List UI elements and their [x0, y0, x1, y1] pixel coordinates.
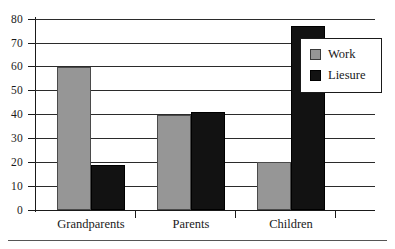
y-axis-tick [28, 162, 35, 163]
x-axis-category-label: Grandparents [57, 217, 124, 232]
bar-chart: 80 70 60 50 40 30 20 10 0 [0, 0, 395, 249]
work-swatch-icon [310, 49, 321, 60]
x-axis-category-label: Children [269, 217, 313, 232]
legend-label: Liesure [328, 68, 365, 83]
legend-item-liesure: Liesure [310, 68, 365, 83]
y-axis-tick [28, 138, 35, 139]
y-axis-tick [28, 66, 35, 67]
y-axis-tick-label: 60 [11, 60, 23, 72]
bar-parents-liesure [191, 112, 225, 210]
y-axis-tick [28, 90, 35, 91]
x-axis-tick [335, 210, 336, 218]
leisure-swatch-icon [310, 70, 321, 81]
y-axis-tick [28, 114, 35, 115]
y-axis-tick [28, 186, 35, 187]
y-axis-tick-label: 0 [17, 204, 23, 216]
legend-label: Work [328, 47, 355, 62]
footer-divider [8, 240, 387, 241]
bar-grandparents-liesure [91, 165, 125, 210]
x-axis-tick [135, 210, 136, 218]
y-axis-tick-label: 20 [11, 156, 23, 168]
y-axis-tick-label: 80 [11, 13, 23, 25]
y-axis-tick [28, 19, 35, 20]
legend-item-work: Work [310, 47, 355, 62]
y-axis-tick [28, 43, 35, 44]
y-axis-tick-label: 30 [11, 132, 23, 144]
x-axis-tick [235, 210, 236, 218]
x-axis-line [35, 210, 375, 211]
bar-children-work [257, 162, 291, 210]
gridline [35, 19, 375, 20]
y-axis-tick-label: 10 [11, 180, 23, 192]
bar-parents-work [157, 115, 191, 211]
x-axis-category-label: Parents [173, 217, 210, 232]
y-axis-tick-label: 70 [11, 37, 23, 49]
y-axis-tick-label: 50 [11, 84, 23, 96]
y-axis-tick [28, 210, 35, 211]
y-axis-tick-label: 40 [11, 108, 23, 120]
bar-grandparents-work [57, 67, 91, 210]
chart-legend: Work Liesure [300, 38, 382, 93]
